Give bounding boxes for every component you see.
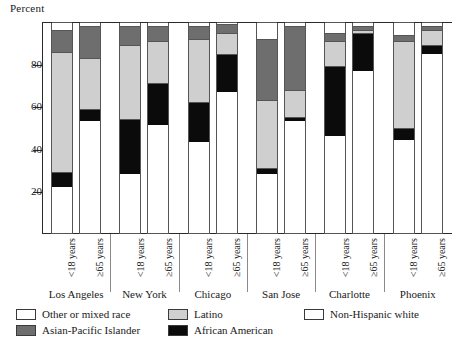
bar-segment-other-or-mixed-race <box>325 22 345 33</box>
city-label: Phoenix <box>384 288 452 300</box>
bar-segment-non-hispanic-white <box>394 140 414 233</box>
bar-segment-other-or-mixed-race <box>394 22 414 35</box>
bar-segment-latino <box>325 41 345 66</box>
bar-segment-african-american <box>217 54 237 92</box>
bar-segment-latino <box>217 33 237 54</box>
city-label: Charlotte <box>315 288 383 300</box>
bars-layer <box>42 23 452 234</box>
bar-segment-other-or-mixed-race <box>257 22 277 39</box>
legend-item-other-or-mixed-race[interactable]: Other or mixed race <box>16 308 130 320</box>
group-separator <box>247 234 248 292</box>
bar-segment-latino <box>257 100 277 168</box>
bar-segment-african-american <box>189 102 209 142</box>
stacked-bar[interactable] <box>79 23 101 234</box>
bar-axis-label: <18 years <box>203 238 214 277</box>
bar-segment-non-hispanic-white <box>52 187 72 233</box>
group-separator <box>315 234 316 292</box>
bar-axis-label: <18 years <box>135 238 146 277</box>
y-tick: 80 <box>0 65 42 66</box>
bar-group <box>110 23 178 234</box>
bar-segment-asian-pacific-islander <box>120 26 140 45</box>
bar-segment-other-or-mixed-race <box>52 22 72 30</box>
bar-segment-asian-pacific-islander <box>189 26 209 39</box>
bar-segment-other-or-mixed-race <box>422 22 442 26</box>
bar-segment-other-or-mixed-race <box>120 22 140 26</box>
bar-segment-non-hispanic-white <box>217 92 237 233</box>
bar-segment-asian-pacific-islander <box>52 30 72 51</box>
bar-segment-asian-pacific-islander <box>353 26 373 30</box>
bar-group <box>179 23 247 234</box>
bar-segment-non-hispanic-white <box>422 54 442 233</box>
bar-segment-latino <box>394 41 414 128</box>
bar-segment-non-hispanic-white <box>353 71 373 233</box>
bar-segment-latino <box>52 52 72 172</box>
legend-item-asian-pacific-islander[interactable]: Asian-Pacific Islander <box>16 324 140 336</box>
bar-axis-label: ≥65 years <box>94 238 105 277</box>
bar-segment-african-american <box>394 128 414 141</box>
bar-axis-label: <18 years <box>271 238 282 277</box>
stacked-bar[interactable] <box>216 23 238 234</box>
stacked-bar[interactable] <box>256 23 278 234</box>
bar-segment-other-or-mixed-race <box>80 22 100 26</box>
bar-group <box>247 23 315 234</box>
stacked-bar[interactable] <box>188 23 210 234</box>
bar-group <box>315 23 383 234</box>
legend-item-non-hispanic-white[interactable]: Non-Hispanic white <box>304 308 419 320</box>
bar-axis-label: ≥65 years <box>231 238 242 277</box>
bar-segment-latino <box>189 39 209 102</box>
y-tick-label: 20 <box>12 185 42 197</box>
legend-swatch-latino <box>168 309 188 320</box>
bar-segment-other-or-mixed-race <box>189 22 209 26</box>
stacked-bar[interactable] <box>284 23 306 234</box>
city-label: Chicago <box>179 288 247 300</box>
legend-swatch-non-hispanic-white <box>304 309 324 320</box>
bar-segment-latino <box>422 30 442 45</box>
bar-group <box>42 23 110 234</box>
stacked-bar[interactable] <box>119 23 141 234</box>
legend-item-latino[interactable]: Latino <box>168 308 223 320</box>
bar-segment-non-hispanic-white <box>148 125 168 233</box>
stacked-bar[interactable] <box>51 23 73 234</box>
y-tick: 20 <box>0 192 42 193</box>
bar-segment-asian-pacific-islander <box>285 26 305 89</box>
bar-segment-latino <box>353 30 373 32</box>
legend-swatch-asian-pacific-islander <box>16 325 36 336</box>
bar-segment-non-hispanic-white <box>325 136 345 233</box>
bar-segment-asian-pacific-islander <box>80 26 100 58</box>
bar-segment-other-or-mixed-race <box>285 22 305 26</box>
bar-segment-african-american <box>257 168 277 174</box>
group-separator <box>110 234 111 292</box>
legend-item-african-american[interactable]: African American <box>168 324 273 336</box>
bar-segment-non-hispanic-white <box>189 142 209 233</box>
bar-segment-non-hispanic-white <box>285 121 305 233</box>
bar-axis-label: <18 years <box>340 238 351 277</box>
bar-axis-label: ≥65 years <box>163 238 174 277</box>
stacked-bar[interactable] <box>324 23 346 234</box>
bar-axis-label: ≥65 years <box>299 238 310 277</box>
bar-segment-african-american <box>353 33 373 71</box>
city-label: New York <box>110 288 178 300</box>
bar-segment-african-american <box>422 45 442 53</box>
legend-label: Latino <box>194 308 223 320</box>
y-tick: 60 <box>0 107 42 108</box>
legend-swatch-other-or-mixed-race <box>16 309 36 320</box>
stacked-bar[interactable] <box>393 23 415 234</box>
bar-segment-african-american <box>148 83 168 125</box>
stacked-bar[interactable] <box>147 23 169 234</box>
bar-segment-other-or-mixed-race <box>353 22 373 26</box>
bar-segment-african-american <box>120 119 140 174</box>
bar-segment-asian-pacific-islander <box>257 39 277 100</box>
stacked-bar[interactable] <box>421 23 443 234</box>
bar-segment-asian-pacific-islander <box>325 33 345 41</box>
bar-segment-african-american <box>325 66 345 136</box>
y-tick-label: 40 <box>12 143 42 155</box>
legend-label: Other or mixed race <box>42 308 130 320</box>
bar-group <box>384 23 452 234</box>
bar-segment-asian-pacific-islander <box>422 26 442 30</box>
legend-swatch-african-american <box>168 325 188 336</box>
city-label: Los Angeles <box>42 288 110 300</box>
stacked-bar[interactable] <box>352 23 374 234</box>
bar-segment-african-american <box>285 117 305 121</box>
bar-segment-asian-pacific-islander <box>394 35 414 41</box>
group-separator <box>179 234 180 292</box>
